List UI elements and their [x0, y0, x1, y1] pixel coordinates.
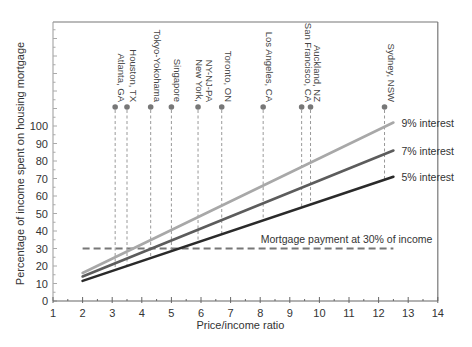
y-tick-label: 100 — [30, 120, 48, 132]
x-tick-label: 8 — [257, 307, 263, 319]
city-label: New York, — [194, 59, 205, 102]
y-tick-label: 50 — [36, 208, 48, 220]
series-9-interest: 9% interest — [83, 117, 454, 274]
y-tick-label: 40 — [36, 225, 48, 237]
city-annotation: Singapore — [169, 59, 184, 251]
city-annotation: San Francisco, CA — [299, 23, 314, 208]
city-label: Houston, TX — [128, 49, 139, 102]
series-label: 9% interest — [401, 117, 454, 129]
city-annotation: Tokyo-Yokohama — [148, 29, 163, 258]
x-tick-label: 11 — [343, 307, 354, 319]
y-tick-label: 80 — [36, 155, 48, 167]
y-axis: 0102030405060708090100 — [30, 22, 57, 307]
y-axis-title: Percentage of income spent on housing mo… — [14, 42, 26, 285]
x-tick-label: 13 — [402, 307, 414, 319]
x-tick-label: 6 — [198, 307, 204, 319]
x-tick-label: 3 — [109, 307, 115, 319]
city-marker-dot — [308, 104, 314, 110]
city-marker-dot — [148, 104, 154, 110]
y-tick-label: 70 — [36, 173, 48, 185]
series-line — [83, 177, 394, 281]
city-label: NY-NJ-PA — [204, 60, 215, 103]
x-tick-label: 2 — [80, 307, 86, 319]
series-label: 7% interest — [401, 145, 454, 157]
city-marker-dot — [124, 104, 130, 110]
x-tick-label: 1 — [50, 307, 56, 319]
city-annotation: Atlanta, GA — [112, 53, 127, 270]
city-label: Toronto, ON — [223, 51, 234, 102]
y-tick-label: 10 — [36, 278, 48, 290]
city-label: Singapore — [172, 59, 183, 102]
city-label: Tokyo-Yokohama — [152, 29, 163, 102]
city-annotation: Los Angeles, CA — [260, 32, 275, 221]
city-marker-dot — [112, 104, 118, 110]
city-marker-dot — [299, 104, 305, 110]
x-tick-label: 5 — [168, 307, 174, 319]
city-marker-dot — [169, 104, 175, 110]
city-marker-dot — [219, 104, 225, 110]
series-5-interest: 5% interest — [83, 171, 454, 281]
x-tick-label: 14 — [432, 307, 444, 319]
y-tick-label: 20 — [36, 260, 48, 272]
series-line — [83, 151, 394, 277]
y-tick-label: 60 — [36, 190, 48, 202]
interest-series: 9% interest7% interest5% interest — [83, 117, 454, 281]
x-tick-label: 4 — [139, 307, 145, 319]
y-tick-label: 90 — [36, 138, 48, 150]
reference-line-label: Mortgage payment at 30% of income — [261, 233, 433, 245]
y-tick-label: 0 — [42, 295, 48, 307]
x-tick-label: 12 — [372, 307, 384, 319]
series-7-interest: 7% interest — [83, 145, 454, 277]
x-tick-label: 7 — [228, 307, 234, 319]
city-label: Auckland, NZ — [312, 45, 323, 102]
city-label: Los Angeles, CA — [264, 32, 275, 103]
x-tick-label: 10 — [313, 307, 325, 319]
mortgage-chart: 0102030405060708090100 12345678910111213… — [0, 0, 472, 347]
x-axis: 1234567891011121314 — [50, 297, 444, 319]
city-label: Sydney, NSW — [386, 44, 397, 102]
x-axis-title: Price/income ratio — [196, 319, 284, 331]
reference-line-30-percent: Mortgage payment at 30% of income — [83, 233, 433, 249]
city-label: Atlanta, GA — [116, 53, 127, 102]
city-annotation: Sydney, NSW — [382, 44, 397, 180]
city-marker-dot — [382, 104, 388, 110]
city-marker-dot — [195, 104, 201, 110]
x-tick-label: 9 — [287, 307, 293, 319]
series-line — [83, 123, 394, 274]
series-label: 5% interest — [401, 171, 454, 183]
city-marker-dot — [260, 104, 266, 110]
y-tick-label: 30 — [36, 243, 48, 255]
